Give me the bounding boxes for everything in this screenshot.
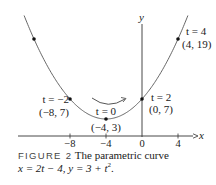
point-label-coord: (0, 7) [149,103,173,116]
x-axis-label: x [198,129,204,141]
caption-line-1: FIGURE 2 The parametric curve [18,149,214,162]
point-label-coord: (−8, 7) [39,106,69,119]
caption-equation: x = 2t − 4, y = 3 + t [18,162,108,174]
x-tick-label: 4 [175,138,181,148]
x-tick-label: −8 [64,138,75,148]
point-label-t: t = 2 [151,91,171,103]
parametric-curve-plot: −8 −4 0 4 x y t = −2 (−8, 7) t = 0 (−4, … [0,0,216,148]
x-tick-label: −4 [100,138,112,148]
point-label-t: t = 4 [186,25,207,37]
point-label-coord: (4, 19) [182,38,212,51]
curve-point-t-neg4 [32,37,36,41]
y-axis-label: y [138,11,144,23]
caption-text: The parametric curve [75,149,169,161]
x-axis-arrow-icon [193,134,198,138]
point-label-coord: (−4, 3) [91,121,121,134]
direction-arc [92,98,125,104]
x-tick-label: 0 [139,138,144,148]
point-label-t: t = 0 [96,105,117,117]
curve-point-t-4 [176,37,180,41]
figure-label: FIGURE 2 [18,150,72,161]
caption-line-2: x = 2t − 4, y = 3 + t2. [18,162,214,175]
figure-caption: FIGURE 2 The parametric curve x = 2t − 4… [18,149,214,175]
curve-point-t-2 [140,97,144,101]
point-label-t: t = −2 [43,93,69,105]
caption-period: . [111,162,114,174]
